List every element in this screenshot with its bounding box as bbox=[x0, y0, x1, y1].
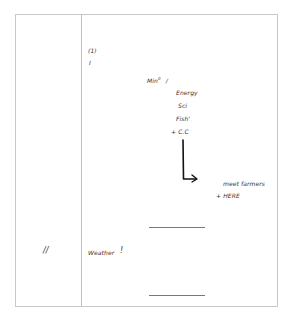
column-divider bbox=[81, 14, 82, 307]
list-item-cc: + C.C bbox=[171, 128, 189, 136]
min-label: Min bbox=[147, 77, 158, 84]
min-superscript: 0 bbox=[158, 76, 161, 81]
underline-rule-1 bbox=[149, 227, 205, 228]
page-frame bbox=[15, 14, 278, 307]
here-note: + HERE bbox=[216, 192, 240, 200]
left-column-marker: // bbox=[43, 246, 49, 256]
list-item-fish: Fish' bbox=[176, 115, 190, 123]
roman-numeral: I bbox=[89, 59, 91, 67]
list-item-energy: Energy bbox=[176, 89, 198, 97]
weather-mark: ! bbox=[120, 246, 123, 256]
min-slash: / bbox=[166, 77, 168, 84]
meet-farmers-note: meet farmers bbox=[223, 180, 265, 188]
list-item-sci: Sci bbox=[178, 102, 187, 110]
note-page: // (1) I Min0 / Energy Sci Fish' + C.C m… bbox=[0, 0, 290, 323]
section-number: (1) bbox=[88, 47, 97, 55]
arrow-icon bbox=[176, 136, 206, 186]
min-heading: Min0 / bbox=[147, 75, 168, 85]
weather-label: Weather bbox=[88, 249, 114, 257]
underline-rule-2 bbox=[149, 295, 205, 296]
